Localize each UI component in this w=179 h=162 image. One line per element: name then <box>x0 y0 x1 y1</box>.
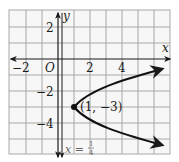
vertex-label: (1, −3) <box>80 100 122 114</box>
tick-x-neg2: −2 <box>12 61 30 75</box>
directrix-fraction-numerator: 1 <box>89 140 93 148</box>
directrix-label: x = <box>65 143 84 156</box>
tick-x-4: 4 <box>118 61 126 75</box>
x-axis-label: x <box>162 41 169 55</box>
tick-y-2: 2 <box>46 21 54 35</box>
origin-label: O <box>45 61 55 75</box>
tick-x-2: 2 <box>86 61 94 75</box>
tick-y-neg4: −4 <box>36 117 54 131</box>
vertex-point <box>71 104 77 110</box>
tick-y-neg2: −2 <box>36 85 54 99</box>
parabola-graph: x y −2 O 2 4 2 −2 −4 (1, −3) x = 1 4 <box>0 0 179 162</box>
y-axis-label: y <box>62 9 70 23</box>
directrix-fraction-denominator: 4 <box>89 149 94 157</box>
